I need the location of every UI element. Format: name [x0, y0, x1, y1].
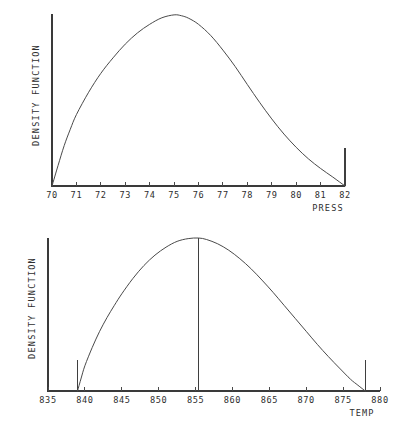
x-tick-label: 850 [150, 395, 167, 405]
temp-axes [48, 238, 380, 391]
x-tick-label: 74 [144, 190, 156, 200]
temp-chart-svg: 835840845850855860865870875880 TEMP DENS… [0, 220, 393, 434]
temp-x-axis-title: TEMP [349, 408, 374, 418]
press-chart-svg: 70717273747576777879808182 PRESS DENSITY… [0, 0, 393, 220]
x-tick-label: 81 [315, 190, 327, 200]
x-tick-label: 79 [266, 190, 278, 200]
temp-tick-labels: 835840845850855860865870875880 [39, 395, 388, 405]
x-tick-label: 72 [95, 190, 107, 200]
x-tick-label: 77 [217, 190, 229, 200]
x-tick-label: 845 [113, 395, 130, 405]
press-y-axis-title: DENSITY FUNCTION [31, 44, 41, 146]
x-tick-label: 76 [193, 190, 205, 200]
chart-density-vs-temp: 835840845850855860865870875880 TEMP DENS… [0, 220, 393, 434]
x-tick-label: 78 [242, 190, 254, 200]
press-tick-marks [52, 182, 345, 186]
x-tick-label: 840 [76, 395, 93, 405]
x-tick-label: 870 [298, 395, 315, 405]
temp-annotation-rules [78, 238, 366, 391]
x-tick-label: 75 [168, 190, 180, 200]
x-tick-label: 73 [120, 190, 132, 200]
x-tick-label: 880 [371, 395, 388, 405]
x-tick-label: 70 [46, 190, 58, 200]
temp-axis-lines [48, 238, 380, 391]
chart-density-vs-press: 70717273747576777879808182 PRESS DENSITY… [0, 0, 393, 220]
press-x-axis-title: PRESS [312, 203, 343, 213]
x-tick-label: 80 [290, 190, 302, 200]
x-tick-label: 855 [187, 395, 204, 405]
press-density-curve [52, 15, 345, 186]
x-tick-label: 860 [224, 395, 241, 405]
x-tick-label: 875 [334, 395, 351, 405]
press-axes [52, 14, 345, 186]
press-tick-labels: 70717273747576777879808182 [46, 190, 351, 200]
x-tick-label: 835 [39, 395, 56, 405]
x-tick-label: 865 [261, 395, 278, 405]
temp-y-axis-title: DENSITY FUNCTION [27, 257, 37, 359]
temp-density-curve [78, 238, 366, 391]
figure-page: 70717273747576777879808182 PRESS DENSITY… [0, 0, 393, 434]
press-axis-lines [52, 14, 345, 186]
temp-tick-marks [48, 387, 380, 391]
x-tick-label: 82 [339, 190, 351, 200]
x-tick-label: 71 [71, 190, 83, 200]
